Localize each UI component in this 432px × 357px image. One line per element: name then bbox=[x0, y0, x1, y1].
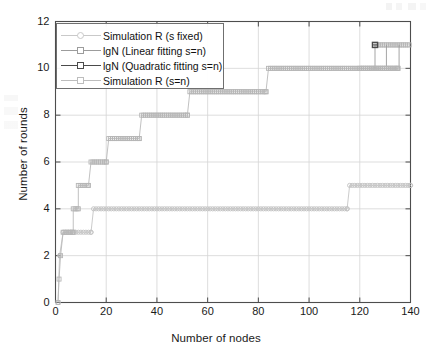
legend-item[interactable]: Simulation R (s=n) bbox=[57, 73, 225, 89]
legend-marker-square bbox=[77, 77, 84, 84]
x-tick-label: 60 bbox=[188, 305, 228, 317]
legend-item-label: Simulation R (s=n) bbox=[103, 75, 190, 87]
y-axis-label: Number of rounds bbox=[17, 54, 29, 254]
series-sim-r-s-fixed-line bbox=[58, 185, 410, 302]
y-tick-label: 2 bbox=[20, 249, 50, 261]
legend-item[interactable]: lgN (Linear fitting s=n) bbox=[57, 43, 225, 59]
x-tick-label: 120 bbox=[340, 305, 380, 317]
legend-marker-square-filled bbox=[77, 62, 84, 69]
legend-item[interactable]: Simulation R (s fixed) bbox=[57, 28, 225, 44]
x-tick-label: 20 bbox=[86, 305, 126, 317]
series-lgn-steps-line bbox=[58, 68, 398, 302]
legend-marker-circle bbox=[77, 32, 84, 39]
x-axis-label: Number of nodes bbox=[0, 332, 432, 344]
y-tick-label: 0 bbox=[20, 296, 50, 308]
y-tick-label: 4 bbox=[20, 202, 50, 214]
y-tick-label: 8 bbox=[20, 108, 50, 120]
legend-sample bbox=[61, 59, 101, 73]
legend-sample bbox=[61, 74, 101, 88]
legend-item-label: lgN (Quadratic fitting s=n) bbox=[103, 60, 222, 72]
legend-item-label: lgN (Linear fitting s=n) bbox=[103, 45, 206, 57]
x-tick-label: 40 bbox=[137, 305, 177, 317]
x-tick-label: 80 bbox=[238, 305, 278, 317]
legend-marker-square bbox=[77, 47, 84, 54]
y-tick-label: 12 bbox=[20, 15, 50, 27]
legend-item-label: Simulation R (s fixed) bbox=[103, 30, 203, 42]
x-axis-label-text: Number of nodes bbox=[171, 332, 261, 344]
y-axis-label-text: Number of rounds bbox=[17, 107, 29, 201]
figure-container: Number of rounds Number of nodes Simulat… bbox=[0, 0, 432, 357]
legend-item[interactable]: lgN (Quadratic fitting s=n) bbox=[57, 58, 225, 74]
chart-legend: Simulation R (s fixed)lgN (Linear fittin… bbox=[56, 23, 224, 89]
legend-sample bbox=[61, 29, 101, 43]
x-tick-label: 140 bbox=[391, 305, 431, 317]
x-tick-label: 100 bbox=[289, 305, 329, 317]
y-tick-label: 10 bbox=[20, 61, 50, 73]
legend-sample bbox=[61, 44, 101, 58]
y-tick-label: 6 bbox=[20, 155, 50, 167]
